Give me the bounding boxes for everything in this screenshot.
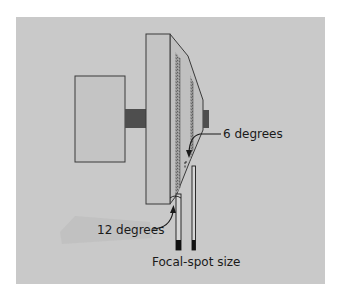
label-12-degrees: 12 degrees <box>97 223 164 237</box>
beam-large <box>176 194 181 250</box>
rotor-block <box>75 76 125 162</box>
stipple-band-inner <box>175 52 180 196</box>
shaft <box>125 109 146 128</box>
anode-disk <box>146 34 170 204</box>
hub-stub <box>203 110 209 128</box>
label-focal-spot-size: Focal-spot size <box>152 255 240 269</box>
stipple-band-outer <box>190 75 193 160</box>
label-6-degrees: 6 degrees <box>223 127 283 141</box>
beam-small <box>192 166 196 250</box>
anode-angle-diagram: 6 degrees 12 degrees Focal-spot size <box>0 0 337 294</box>
